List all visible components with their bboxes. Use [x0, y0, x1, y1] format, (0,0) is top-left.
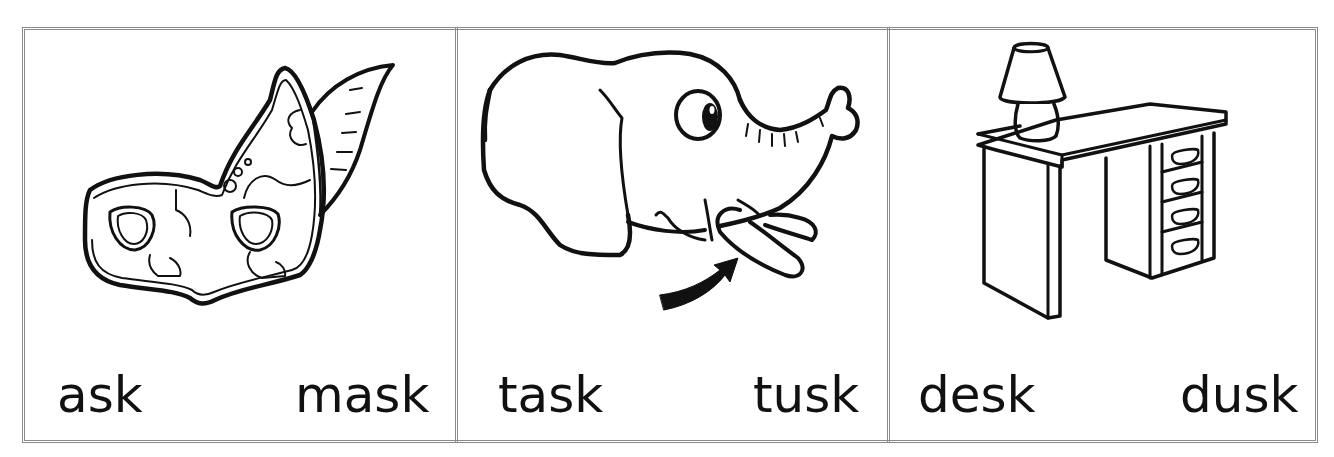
word-left: ask — [57, 360, 143, 430]
word-left: desk — [918, 360, 1036, 430]
panel-tusk: task tusk — [458, 27, 888, 443]
word-right: tusk — [753, 360, 859, 430]
word-right: mask — [295, 360, 429, 430]
word-left: task — [498, 360, 603, 430]
panel-desk: desk dusk — [890, 27, 1318, 443]
word-right: dusk — [1180, 360, 1298, 430]
panel-mask: ask mask — [22, 27, 456, 443]
